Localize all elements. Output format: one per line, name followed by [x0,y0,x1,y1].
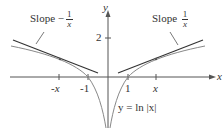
x-tick-label-1: 1 [125,83,131,94]
x-tick-label-neg-1: -1 [80,83,89,94]
tangent-point-right [155,58,157,60]
x-axis-arrow-icon [209,75,216,80]
y-axis-label: y [103,2,108,13]
tangent-line-left [13,40,98,73]
tangent-line-right [118,40,203,73]
y-tick-label-2: 2 [96,32,102,43]
fraction-left: 1x [66,10,73,29]
curve-label: y = ln |x| [118,102,156,113]
annotation-slope-left: Slope −1x [30,10,73,29]
x-tick-label-x: x [153,83,158,94]
annotation-left-prefix: Slope − [30,12,64,24]
annotation-slope-right: Slope 1x [152,10,188,29]
fraction-right-denominator: x [182,20,189,29]
fraction-left-denominator: x [66,20,73,29]
x-tick-label-neg-x: -x [51,83,60,94]
x-axis-label: x [217,71,222,82]
leader-line-left [36,32,44,44]
leader-line-right [170,32,178,45]
fraction-right: 1x [182,10,189,29]
tangent-point-left [59,58,61,60]
annotation-right-prefix: Slope [152,12,180,24]
